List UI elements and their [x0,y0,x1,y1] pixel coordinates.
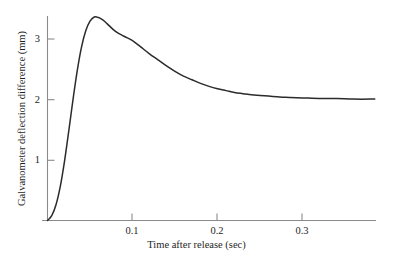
x-tick-label-0.1: 0.1 [125,226,138,237]
y-tick-label-3: 3 [28,34,40,45]
chart-figure: 3 2 1 0.1 0.2 0.3 Time after release (se… [0,0,393,263]
y-tick-label-1: 1 [28,155,40,166]
x-axis-title: Time after release (sec) [0,239,393,250]
data-series-line [48,17,375,221]
x-tick-label-0.2: 0.2 [210,226,223,237]
y-axis-title: Galvanometer deflection difference (mm) [16,19,27,219]
y-tick-label-2: 2 [28,95,40,106]
x-tick-label-0.3: 0.3 [295,226,308,237]
plot-area [0,0,393,263]
